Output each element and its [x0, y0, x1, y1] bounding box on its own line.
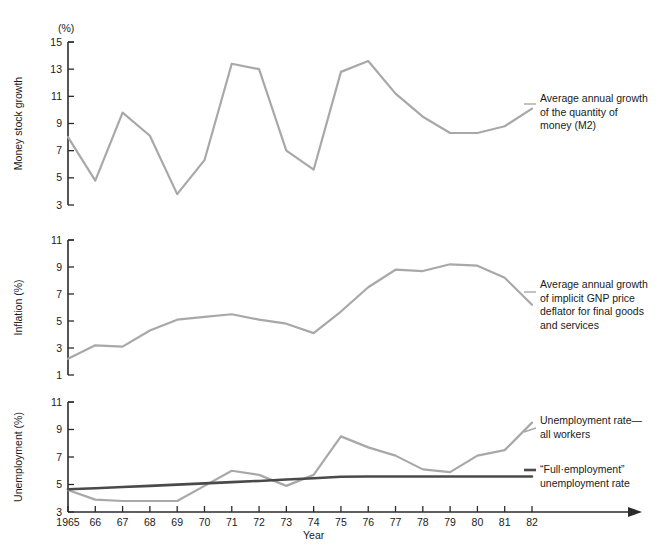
y-tick-label: 13 — [50, 63, 62, 75]
legend-inflation-line: Average annual growth — [540, 278, 648, 290]
x-tick-label: 74 — [308, 516, 320, 528]
x-tick-label: 67 — [117, 516, 129, 528]
unit-label: (%) — [58, 22, 74, 34]
x-axis-arrow-icon — [628, 507, 642, 517]
x-tick-label: 75 — [335, 516, 347, 528]
y-axis-title: Unemployment (%) — [12, 412, 24, 502]
y-tick-label: 5 — [56, 171, 62, 183]
legend-full-employment-rate-line: unemployment rate — [540, 477, 630, 489]
x-tick-label: 78 — [417, 516, 429, 528]
y-tick-label: 9 — [56, 117, 62, 129]
x-axis: 19656667686970717273747576777879808182Ye… — [56, 506, 642, 541]
legend-unemployment-actual: Unemployment rate—all workers — [524, 414, 643, 440]
chart-canvas: 3579111315Money stock growth(%)1357911In… — [0, 0, 664, 558]
y-tick-label: 11 — [51, 396, 62, 408]
y-tick-label: 15 — [50, 36, 62, 48]
chart-panel-inflation: 1357911Inflation (%) — [12, 234, 532, 381]
x-tick-label: 66 — [89, 516, 101, 528]
legend-money-growth-line: Average annual growth — [540, 92, 648, 104]
x-tick-label: 68 — [144, 516, 156, 528]
series-line-primary — [68, 423, 532, 501]
x-tick-label: 79 — [444, 516, 456, 528]
y-tick-label: 7 — [56, 144, 62, 156]
x-tick-label: 71 — [226, 516, 238, 528]
legend-unemployment-actual-line: all workers — [540, 428, 590, 440]
x-tick-label: 81 — [499, 516, 511, 528]
y-axis-title: Money stock growth — [12, 77, 24, 171]
y-tick-label: 7 — [56, 451, 62, 463]
series-line-primary — [68, 61, 532, 194]
y-tick-label: 3 — [56, 342, 62, 354]
x-tick-label: 73 — [281, 516, 293, 528]
chart-panel-money: 3579111315Money stock growth(%) — [12, 22, 532, 211]
legend-full-employment-rate: “Full·employment”unemployment rate — [540, 463, 630, 489]
y-tick-label: 5 — [56, 315, 62, 327]
y-tick-label: 11 — [51, 234, 62, 246]
x-tick-label: 76 — [362, 516, 374, 528]
y-tick-label: 9 — [56, 423, 62, 435]
y-tick-label: 11 — [51, 90, 62, 102]
x-tick-label: 70 — [199, 516, 211, 528]
legend-inflation: Average annual growthof implicit GNP pri… — [524, 278, 648, 331]
x-tick-label: 69 — [171, 516, 183, 528]
legend-inflation-line: deflator for final goods — [540, 305, 644, 317]
legend-money-growth: Average annual growthof the quantity ofm… — [524, 92, 648, 131]
legend-money-growth-line: money (M2) — [540, 119, 596, 131]
x-axis-title: Year — [303, 529, 325, 541]
legend-full-employment-rate-line: “Full·employment” — [540, 463, 625, 475]
y-tick-label: 9 — [56, 261, 62, 273]
x-tick-label: 80 — [472, 516, 484, 528]
legend-inflation-line: and services — [540, 319, 599, 331]
x-tick-label: 77 — [390, 516, 402, 528]
x-tick-label: 72 — [253, 516, 265, 528]
chart-panel-unemployment: 357911Unemployment (%) — [12, 396, 532, 518]
y-tick-label: 7 — [56, 288, 62, 300]
series-line-secondary — [68, 477, 532, 490]
legend-inflation-line: of implicit GNP price — [540, 292, 635, 304]
y-tick-label: 1 — [56, 369, 62, 381]
y-axis-title: Inflation (%) — [12, 279, 24, 335]
x-tick-label: 82 — [526, 516, 538, 528]
y-tick-label: 3 — [56, 199, 62, 211]
x-tick-label: 1965 — [56, 516, 80, 528]
economic-indicators-figure: 3579111315Money stock growth(%)1357911In… — [0, 0, 664, 558]
series-line-primary — [68, 264, 532, 359]
legend-unemployment-actual-line: Unemployment rate— — [540, 414, 643, 426]
legend-money-growth-line: of the quantity of — [540, 106, 618, 118]
y-tick-label: 5 — [56, 478, 62, 490]
